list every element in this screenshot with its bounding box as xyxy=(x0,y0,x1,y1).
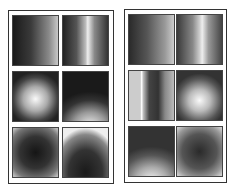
tile-left-5 xyxy=(12,127,59,178)
tile-right-3 xyxy=(128,70,175,121)
tile-left-4 xyxy=(62,71,109,122)
tile-left-2 xyxy=(62,15,109,66)
tile-right-1 xyxy=(128,14,175,65)
tile-right-4 xyxy=(176,70,223,121)
left-panel xyxy=(8,10,114,184)
right-panel xyxy=(124,9,227,183)
tile-right-6 xyxy=(176,126,223,177)
tile-left-1 xyxy=(12,15,59,66)
tile-right-5 xyxy=(128,126,175,177)
tile-left-6 xyxy=(62,127,109,178)
tile-left-3 xyxy=(12,71,59,122)
tile-right-2 xyxy=(176,14,223,65)
